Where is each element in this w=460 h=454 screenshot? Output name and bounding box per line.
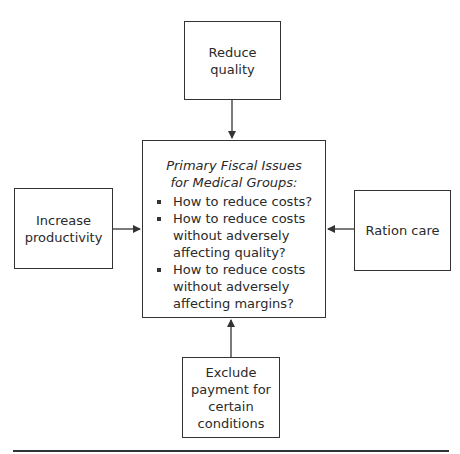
box-ration-care: Ration care xyxy=(354,190,451,271)
box-label: payment for xyxy=(191,381,271,398)
box-label: Exclude xyxy=(191,364,271,381)
item-line: How to reduce costs xyxy=(173,210,325,227)
box-reduce-quality: Reduce quality xyxy=(184,21,281,100)
bottom-divider xyxy=(13,450,449,452)
item-line: affecting margins? xyxy=(173,295,325,312)
item-line: How to reduce costs xyxy=(173,261,325,278)
box-label: Increase xyxy=(25,212,103,229)
item-line: affecting quality? xyxy=(173,244,325,261)
box-label: conditions xyxy=(191,415,271,432)
item-line: How to reduce costs? xyxy=(173,193,325,210)
box-label: productivity xyxy=(25,229,103,246)
title-line: for Medical Groups: xyxy=(143,174,325,191)
box-primary-fiscal-issues: Primary Fiscal Issues for Medical Groups… xyxy=(142,140,326,318)
center-title: Primary Fiscal Issues for Medical Groups… xyxy=(143,157,325,191)
box-label: Reduce quality xyxy=(185,44,280,78)
box-label: Ration care xyxy=(366,222,440,239)
box-increase-productivity: Increase productivity xyxy=(14,188,113,269)
box-exclude-payment: Exclude payment for certain conditions xyxy=(182,357,280,438)
title-line: Primary Fiscal Issues xyxy=(143,157,325,174)
list-item: How to reduce costs? xyxy=(157,193,325,210)
list-item: How to reduce costs without adversely af… xyxy=(157,210,325,261)
issues-list: How to reduce costs? How to reduce costs… xyxy=(143,193,325,312)
item-line: without adversely xyxy=(173,278,325,295)
list-item: How to reduce costs without adversely af… xyxy=(157,261,325,312)
box-label: certain xyxy=(191,398,271,415)
item-line: without adversely xyxy=(173,227,325,244)
